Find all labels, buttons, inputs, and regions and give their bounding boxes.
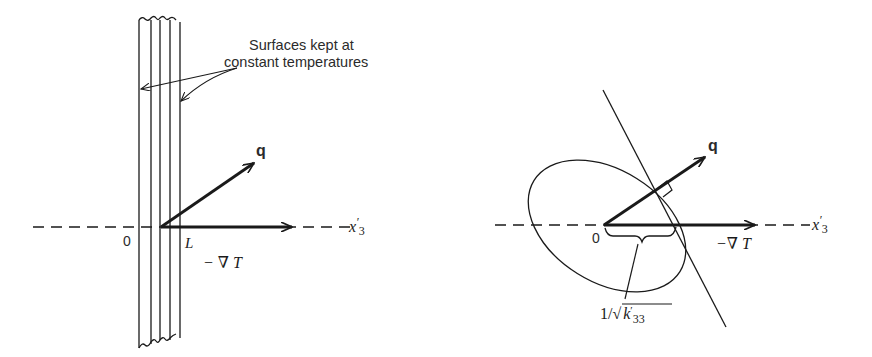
axis-label: x′3 (348, 215, 365, 238)
origin-label: 0 (123, 233, 131, 249)
intercept-brace (605, 227, 676, 242)
flux-arrow (161, 163, 254, 227)
intercept-label: 1/√k′33 (600, 304, 672, 326)
intercept-leader (625, 244, 638, 299)
origin-label: 0 (592, 230, 600, 246)
flux-arrow (604, 157, 705, 225)
gradient-label: −∇ T (716, 235, 752, 252)
flux-label: q (256, 142, 266, 159)
left-panel: Surfaces kept at constant temperatures 0… (33, 17, 368, 349)
annotation-line2: constant temperatures (224, 54, 368, 70)
heat-conduction-diagram: Surfaces kept at constant temperatures 0… (0, 0, 872, 357)
slab (139, 17, 180, 349)
tangent-line (603, 90, 726, 327)
svg-text:1/√k′33: 1/√k′33 (600, 304, 645, 326)
gradient-label: − ∇ T (203, 254, 243, 271)
axis-label: x′3 (811, 213, 828, 236)
right-panel: 0 q −∇ T x′3 1/√k′33 (495, 90, 828, 327)
annotation-line1: Surfaces kept at (249, 37, 354, 53)
thickness-label: L (184, 235, 193, 251)
flux-label: q (708, 137, 718, 154)
annotation-leaders (141, 68, 237, 101)
